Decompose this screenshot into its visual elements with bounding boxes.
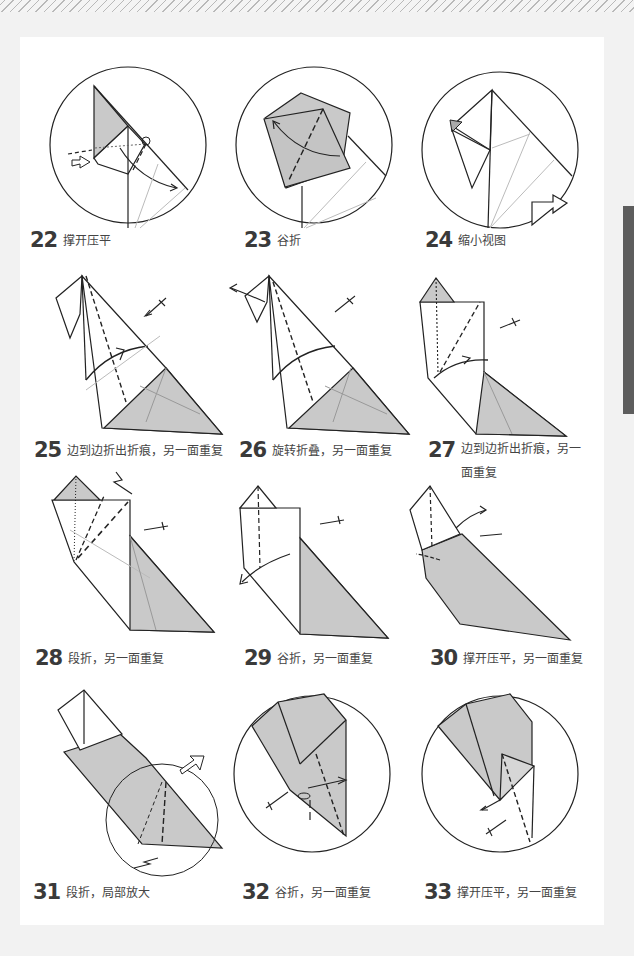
top-hatch-border <box>0 0 634 12</box>
step-26 <box>225 262 425 442</box>
step-30-diagram <box>400 478 600 648</box>
step-instruction: 撑开压平，另一面重复 <box>457 882 577 904</box>
step-instruction: 谷折，另一面重复 <box>275 882 371 904</box>
chapter-side-tab <box>623 206 634 414</box>
step-instruction: 谷折，另一面重复 <box>277 648 373 670</box>
step-22-caption: 22 撑开压平 <box>30 230 111 252</box>
step-23-diagram <box>230 60 410 230</box>
step-23 <box>230 60 410 230</box>
step-32 <box>230 690 410 860</box>
step-instruction: 边到边折出折痕，另一面重复 <box>67 440 223 462</box>
step-25 <box>40 262 240 442</box>
step-number: 29 <box>244 648 271 668</box>
step-22-diagram <box>40 60 220 230</box>
step-29-caption: 29 谷折，另一面重复 <box>244 648 373 670</box>
step-number: 33 <box>424 882 451 902</box>
step-instruction: 缩小视图 <box>458 230 506 252</box>
step-instruction: 谷折 <box>277 230 301 252</box>
step-29-diagram <box>220 478 420 648</box>
step-instruction: 旋转折叠，另一面重复 <box>272 440 392 462</box>
step-28-caption: 28 段折，另一面重复 <box>35 648 164 670</box>
step-30 <box>400 478 600 648</box>
step-33-caption: 33 撑开压平，另一面重复 <box>424 882 577 904</box>
step-25-caption: 25 边到边折出折痕，另一面重复 <box>34 440 223 462</box>
step-32-caption: 32 谷折，另一面重复 <box>242 882 371 904</box>
step-27 <box>400 262 600 442</box>
step-31-caption: 31 段折，局部放大 <box>33 882 150 904</box>
step-24 <box>420 60 600 230</box>
step-number: 23 <box>244 230 271 250</box>
step-24-caption: 24 缩小视图 <box>425 230 506 252</box>
step-number: 31 <box>33 882 60 902</box>
step-number: 25 <box>34 440 61 460</box>
step-26-diagram <box>225 262 425 442</box>
step-instruction: 撑开压平 <box>63 230 111 252</box>
step-33-diagram <box>410 680 610 860</box>
step-29 <box>220 478 420 648</box>
step-instruction: 段折，另一面重复 <box>68 648 164 670</box>
step-number: 22 <box>30 230 57 250</box>
step-25-diagram <box>40 262 240 442</box>
step-number: 30 <box>430 648 457 668</box>
step-31-diagram <box>50 680 250 880</box>
step-23-caption: 23 谷折 <box>244 230 301 252</box>
step-26-caption: 26 旋转折叠，另一面重复 <box>239 440 392 462</box>
step-number: 28 <box>35 648 62 668</box>
step-number: 27 <box>428 440 455 460</box>
step-32-diagram <box>230 690 410 860</box>
step-number: 26 <box>239 440 266 460</box>
step-instruction: 段折，局部放大 <box>66 882 150 904</box>
step-27-diagram <box>400 262 600 442</box>
step-number: 24 <box>425 230 452 250</box>
step-number: 32 <box>242 882 269 902</box>
step-instruction: 撑开压平，另一面重复 <box>463 648 583 670</box>
step-28 <box>40 470 240 640</box>
step-24-diagram <box>420 60 600 230</box>
step-31 <box>50 680 250 880</box>
step-22 <box>40 60 220 230</box>
step-30-caption: 30 撑开压平，另一面重复 <box>430 648 583 670</box>
step-28-diagram <box>40 470 240 640</box>
step-33 <box>410 680 610 860</box>
